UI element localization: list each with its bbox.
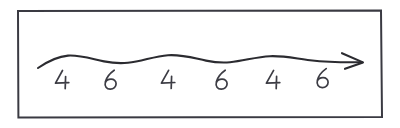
sketch-drawing bbox=[0, 0, 400, 128]
frame-rectangle-path bbox=[18, 10, 382, 117]
digit-4-glyph bbox=[266, 70, 279, 88]
digit-4-glyph bbox=[56, 71, 69, 89]
digit-6-glyph bbox=[216, 70, 227, 89]
digit-4-glyph bbox=[161, 70, 174, 88]
arrowhead-path bbox=[342, 53, 363, 69]
digit-labels bbox=[56, 69, 329, 90]
digit-label-2 bbox=[105, 70, 116, 89]
digit-label-4 bbox=[216, 70, 227, 89]
digit-6-glyph bbox=[317, 69, 328, 88]
frame-border bbox=[18, 10, 382, 117]
wave-shaft-path bbox=[38, 55, 362, 68]
sketch-canvas: 4 6 4 6 4 6 bbox=[0, 0, 400, 128]
digit-label-5 bbox=[266, 70, 279, 88]
digit-6-glyph bbox=[105, 70, 116, 89]
digit-label-1 bbox=[56, 71, 69, 89]
digit-label-3 bbox=[161, 70, 174, 88]
wavy-arrow bbox=[38, 53, 363, 69]
digit-label-6 bbox=[317, 69, 328, 88]
